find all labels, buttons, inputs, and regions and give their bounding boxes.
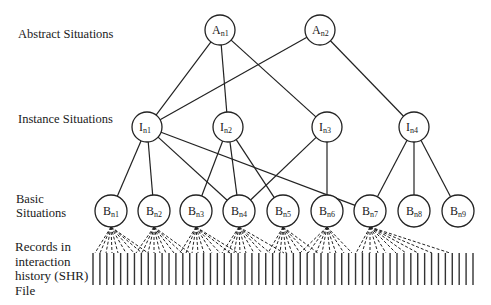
edge-An2-In1 [160,37,307,119]
record-link [136,227,154,253]
record-link [106,227,111,253]
record-link [362,227,370,253]
record-link [308,227,327,253]
edge-In1-Bn1 [117,141,141,197]
record-link [327,227,352,253]
node-bn2: Bn2 [138,195,170,227]
node-in4: In4 [399,112,429,142]
edge-An1-In2 [221,45,227,112]
node-bn4: Bn4 [223,195,255,227]
record-link [370,227,432,253]
record-link [196,227,198,253]
edge-An1-In1 [156,42,211,115]
record-link [239,227,254,253]
records-layer [93,253,473,285]
record-link [370,227,386,253]
record-link [370,227,396,253]
edge-An2-In4 [330,41,403,116]
situation-hierarchy-diagram: An1An2In1In2In3In4Bn1Bn2Bn3Bn4Bn5Bn6Bn7B… [0,0,491,305]
record-link [148,227,154,253]
record-link [234,227,239,253]
edge-In2-Bn5 [236,140,274,198]
record-links-layer [95,227,450,253]
record-link [239,227,270,253]
record-link [100,227,111,253]
record-link [222,227,239,253]
record-link [111,227,112,253]
node-bn9: Bn9 [442,195,474,227]
node-bn6: Bn6 [311,195,343,227]
node-in2: In2 [213,112,243,142]
record-link [196,227,212,253]
edge-In3-Bn4 [251,137,317,200]
node-bn5: Bn5 [267,195,299,227]
record-link [154,227,174,253]
edge-In4-Bn9 [421,140,451,197]
record-link [196,227,220,253]
record-link [142,227,154,253]
node-an2: An2 [305,15,335,45]
record-link [111,227,134,253]
record-link [228,227,239,253]
edge-In1-Bn4 [158,137,227,200]
node-bn7: Bn7 [354,195,386,227]
record-link [280,227,283,253]
record-link [327,227,336,253]
node-bn8: Bn8 [398,195,430,227]
record-link [283,227,286,253]
node-an1: An1 [205,15,235,45]
record-link [154,227,182,253]
node-in3: In3 [312,112,342,142]
nodes-layer: An1An2In1In2In3In4Bn1Bn2Bn3Bn4Bn5Bn6Bn7B… [95,15,474,227]
record-link [370,227,406,253]
record-link [356,227,370,253]
record-link [239,227,262,253]
record-link [180,227,196,253]
record-link [283,227,318,253]
record-link [239,227,284,253]
node-in1: In1 [132,112,162,142]
record-link [95,227,111,253]
node-bn3: Bn3 [180,195,212,227]
record-link [327,227,330,253]
edge-In2-Bn4 [230,142,237,195]
edge-In4-Bn7 [377,140,407,197]
record-link [239,227,240,253]
edge-An1-In3 [231,40,316,117]
node-bn1: Bn1 [95,195,127,227]
record-link [111,227,126,253]
record-link [192,227,196,253]
record-link [111,227,142,253]
edge-In1-Bn2 [148,142,152,195]
